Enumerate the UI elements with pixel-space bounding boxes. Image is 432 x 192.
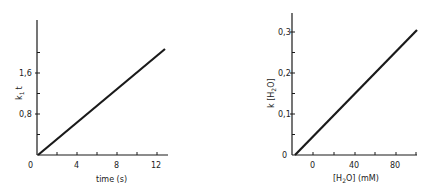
- left-y-axis-label: k1t: [15, 86, 25, 100]
- right-y-tick-0.1: 0,1: [278, 110, 291, 119]
- right-y-tick-0.2: 0,2: [278, 69, 291, 78]
- left-x-tick-8: 8: [114, 161, 119, 170]
- right-x-tick-40: 40: [349, 161, 359, 170]
- svg-text:k1t: k1t: [15, 86, 25, 100]
- right-y-tick-0.3: 0,3: [278, 28, 291, 37]
- left-x-tick-12: 12: [151, 161, 161, 170]
- left-x-axis-label: time (s): [96, 175, 127, 184]
- left-y-tick-0.8: 0,8: [19, 110, 32, 119]
- right-y-axis-label: k [H2O]: [267, 78, 277, 108]
- figure: 0 4 8 12 0,8 1,6 time (s) k1t: [0, 0, 432, 192]
- left-y-tick-1.6: 1,6: [19, 69, 32, 78]
- svg-text:k [H2O]: k [H2O]: [267, 78, 277, 108]
- right-x-axis-label: [H2O] (mM): [333, 174, 379, 184]
- right-data-line: [295, 30, 417, 155]
- right-y-tick-0: 0: [282, 151, 287, 160]
- right-chart: 0 0,1 0,2 0,3 0 40 80 [H2O] (mM) k [H2O]: [267, 13, 417, 184]
- left-data-line: [38, 49, 165, 155]
- right-x-tick-80: 80: [390, 161, 400, 170]
- right-x-tick-0: 0: [310, 161, 315, 170]
- left-x-tick-4: 4: [74, 161, 79, 170]
- left-chart: 0 4 8 12 0,8 1,6 time (s) k1t: [15, 20, 168, 184]
- left-origin-label: 0: [28, 161, 33, 170]
